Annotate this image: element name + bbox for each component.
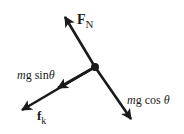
gravity-parallel-label: mg sinθ [17, 68, 55, 82]
friction-label: fk [37, 108, 46, 126]
gravity-perpendicular-label: mg cos θ [127, 93, 170, 107]
object-point [91, 63, 99, 71]
free-body-diagram: FN mg sinθ fk mg cos θ [0, 0, 184, 134]
normal-force-label: FN [77, 12, 94, 30]
gravity-parallel-arrow [58, 67, 95, 88]
gravity-perpendicular-arrow [95, 67, 131, 119]
